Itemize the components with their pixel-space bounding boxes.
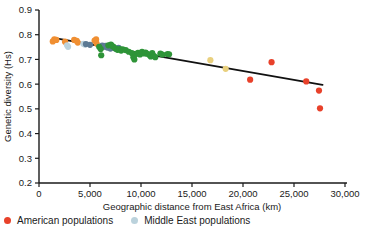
legend-entry[interactable]: American populations — [4, 216, 113, 226]
legend-swatch-icon — [4, 217, 11, 224]
y-tick-label: 0.5 — [19, 103, 32, 114]
data-point — [152, 54, 158, 60]
data-point — [268, 59, 274, 65]
data-point — [75, 40, 81, 46]
data-points — [50, 36, 323, 111]
data-point — [303, 78, 309, 84]
y-tick-label: 0.3 — [19, 153, 32, 164]
y-tick-label: 0.2 — [19, 177, 32, 188]
x-tick-label: 20,000 — [228, 188, 257, 199]
legend-label: American populations — [17, 216, 113, 226]
chart-canvas: 0.20.30.40.50.60.70.80.9 05,00010,00015,… — [0, 0, 373, 231]
x-tick-label: 15,000 — [177, 188, 206, 199]
x-tick-label: 10,000 — [126, 188, 155, 199]
trendline-segment — [53, 38, 322, 85]
data-point — [65, 44, 71, 50]
legend-swatch-icon — [131, 217, 138, 224]
data-point — [316, 87, 322, 93]
data-point — [207, 57, 213, 63]
series-asian-populations — [96, 42, 172, 63]
data-point — [87, 42, 93, 48]
data-point — [98, 46, 104, 52]
data-point — [247, 77, 253, 83]
axis-lines — [39, 10, 347, 183]
y-axis-ticks: 0.20.30.40.50.60.70.80.9 — [19, 4, 39, 188]
y-tick-label: 0.7 — [19, 54, 32, 65]
x-tick-label: 5,000 — [78, 188, 102, 199]
y-axis-title: Genetic diversity (Hs) — [2, 51, 13, 142]
x-tick-label: 0 — [36, 188, 41, 199]
scatter-plot-figure: 0.20.30.40.50.60.70.80.9 05,00010,00015,… — [0, 0, 373, 231]
y-tick-label: 0.6 — [19, 79, 32, 90]
data-point — [166, 51, 172, 57]
y-tick-label: 0.9 — [19, 4, 32, 15]
regression-trendline — [53, 38, 322, 85]
chart-legend: American populationsMiddle East populati… — [0, 210, 373, 231]
y-tick-label: 0.4 — [19, 128, 32, 139]
y-tick-label: 0.8 — [19, 29, 32, 40]
series-american-populations — [247, 59, 323, 111]
data-point — [317, 105, 323, 111]
data-point — [223, 66, 229, 72]
x-axis-ticks: 05,00010,00015,00020,00025,00030,000 — [36, 183, 359, 199]
data-point — [53, 37, 59, 43]
data-point — [98, 52, 104, 58]
data-point — [131, 56, 137, 62]
legend-entry[interactable]: Middle East populations — [131, 216, 250, 226]
x-tick-label: 30,000 — [330, 188, 359, 199]
legend-label: Middle East populations — [144, 216, 250, 226]
x-tick-label: 25,000 — [279, 188, 308, 199]
